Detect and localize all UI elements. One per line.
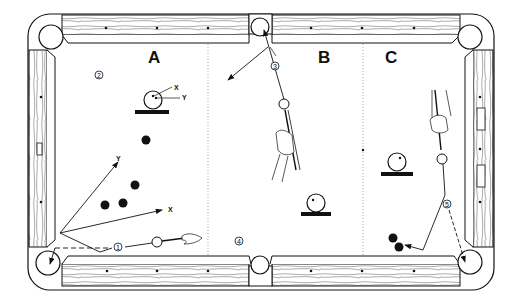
section-label-a: A (148, 48, 160, 67)
svg-text:Y: Y (182, 94, 187, 101)
svg-text:5: 5 (445, 201, 449, 208)
pocket-top-right (458, 25, 482, 49)
top-rail-right (272, 15, 460, 43)
bottom-rail-left (62, 256, 251, 286)
object-ball (131, 181, 140, 190)
left-rail (29, 50, 55, 247)
svg-text:Y: Y (116, 155, 121, 162)
object-ball (142, 136, 151, 145)
section-label-c: C (385, 48, 397, 67)
bottom-rail-right (270, 256, 460, 286)
object-ball (101, 201, 110, 210)
object-ball (389, 234, 398, 243)
svg-text:X: X (174, 84, 179, 91)
right-rail (465, 50, 493, 247)
svg-text:3: 3 (273, 63, 277, 70)
top-rail-left (62, 15, 249, 43)
pocket-bottom-right (458, 250, 482, 274)
svg-text:2: 2 (97, 72, 101, 79)
svg-text:4: 4 (237, 238, 241, 245)
pool-table-diagram: A B C 2 X Y Y X 1 4 (0, 0, 521, 304)
pocket-bottom-left (36, 251, 60, 275)
object-ball (395, 243, 404, 252)
pocket-top-left (39, 25, 63, 49)
svg-text:1: 1 (116, 244, 120, 251)
table-frame (28, 14, 494, 290)
marker-4: 4 (235, 237, 243, 245)
marker-2: 2 (95, 71, 103, 79)
section-label-b: B (318, 48, 330, 67)
pocket-top-middle (249, 14, 272, 36)
svg-text:X: X (168, 206, 173, 213)
object-ball (119, 199, 128, 208)
